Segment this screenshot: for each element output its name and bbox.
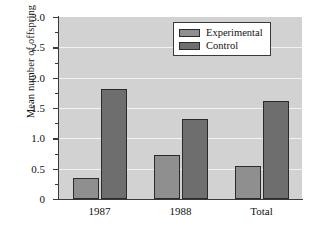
y-tick-major <box>53 169 59 170</box>
y-tick-minor <box>55 32 59 33</box>
legend-label-control: Control <box>206 40 238 52</box>
bar-chart-figure: Mean number of offspring 00.51.01.52.02.… <box>0 0 315 233</box>
y-tick-minor <box>55 154 59 155</box>
legend-swatch-control <box>179 42 200 50</box>
y-tick-major <box>53 17 59 18</box>
legend-item-experimental[interactable]: Experimental <box>179 26 263 39</box>
bar-experimental-1987[interactable] <box>73 178 99 199</box>
y-tick-major <box>53 108 59 109</box>
x-axis-line <box>58 199 303 200</box>
bar-control-1987[interactable] <box>101 89 127 199</box>
y-tick-label: 0.5 <box>0 163 45 175</box>
bar-control-total[interactable] <box>263 101 289 199</box>
y-tick-label: 0 <box>0 193 45 205</box>
gridline <box>59 78 302 79</box>
x-category-label: 1988 <box>170 205 192 217</box>
y-tick-minor <box>55 63 59 64</box>
bar-experimental-total[interactable] <box>235 166 261 199</box>
y-tick-label: 1.5 <box>0 102 45 114</box>
y-tick-major <box>53 78 59 79</box>
y-tick-label: 2.0 <box>0 72 45 84</box>
y-tick-major <box>53 199 59 200</box>
legend-label-experimental: Experimental <box>206 27 263 39</box>
x-category-label: 1987 <box>89 205 111 217</box>
y-tick-major <box>53 138 59 139</box>
y-tick-label: 3.0 <box>0 11 45 23</box>
bar-control-1988[interactable] <box>182 119 208 199</box>
bar-experimental-1988[interactable] <box>154 155 180 199</box>
legend: Experimental Control <box>173 22 271 56</box>
y-tick-minor <box>55 123 59 124</box>
y-tick-label: 1.0 <box>0 132 45 144</box>
y-tick-minor <box>55 93 59 94</box>
y-tick-label: 2.5 <box>0 41 45 53</box>
x-category-label: Total <box>250 205 272 217</box>
legend-swatch-experimental <box>179 29 200 37</box>
legend-item-control[interactable]: Control <box>179 39 263 52</box>
y-tick-major <box>53 47 59 48</box>
y-tick-minor <box>55 184 59 185</box>
